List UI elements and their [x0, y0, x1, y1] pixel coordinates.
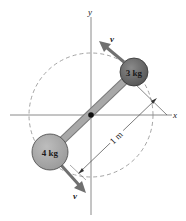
dumbbell-diagram: x y 1 m v v 3 kg 4 kg — [0, 0, 186, 221]
y-axis-label: y — [87, 7, 92, 17]
velocity-label-top: v — [110, 34, 115, 44]
velocity-arrow-top — [99, 41, 124, 62]
mass-4kg-label: 4 kg — [42, 148, 59, 158]
mass-3kg-label: 3 kg — [126, 68, 143, 78]
pivot-point — [88, 112, 94, 118]
velocity-label-bottom: v — [73, 191, 78, 201]
x-axis-label: x — [172, 110, 177, 120]
